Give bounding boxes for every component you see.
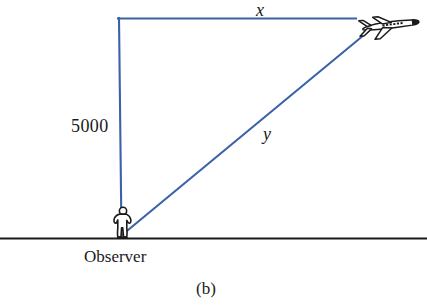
person-base-shadow <box>117 236 128 238</box>
observer-label: Observer <box>84 248 146 265</box>
figure-caption: (b) <box>196 280 216 297</box>
hypotenuse-label: y <box>263 125 271 143</box>
hypotenuse-line <box>122 30 370 235</box>
horizontal-leg-label: x <box>256 1 264 19</box>
vertical-leg-line <box>119 18 122 234</box>
vertical-leg-label: 5000 <box>71 117 109 135</box>
airplane-icon <box>358 13 420 41</box>
figure-container: x y 5000 Observer (b) <box>0 0 427 306</box>
triangle-diagram <box>0 0 427 306</box>
